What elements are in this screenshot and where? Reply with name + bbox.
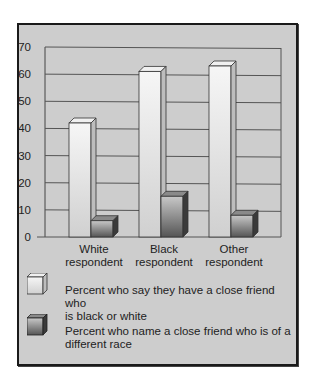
svg-text:60: 60 xyxy=(19,68,31,80)
legend-label-line-2: is black or white xyxy=(65,310,295,323)
legend-label-line-1: Percent who say they have a close friend… xyxy=(65,284,295,310)
y-axis-ticks: 010203040506070 xyxy=(19,41,31,243)
legend-label-line-1: Percent who name a close friend who is o… xyxy=(65,325,295,338)
svg-text:30: 30 xyxy=(19,150,31,162)
x-axis-label: Blackrespondent xyxy=(124,243,204,269)
svg-text:10: 10 xyxy=(19,204,31,216)
dark-bar-swatch-icon xyxy=(27,314,49,336)
svg-text:40: 40 xyxy=(19,122,31,134)
bar-chart: 010203040506070 xyxy=(19,25,296,255)
svg-text:0: 0 xyxy=(25,231,31,243)
light-bar-swatch-icon xyxy=(27,273,49,295)
legend-label-line-2: different race xyxy=(65,338,295,351)
chart-panel: 010203040506070 WhiterespondentBlackresp… xyxy=(17,23,298,366)
svg-text:50: 50 xyxy=(19,95,31,107)
x-axis-label: Otherrespondent xyxy=(194,243,274,269)
x-axis-label: Whiterespondent xyxy=(54,243,134,269)
svg-text:20: 20 xyxy=(19,177,31,189)
svg-text:70: 70 xyxy=(19,41,31,53)
